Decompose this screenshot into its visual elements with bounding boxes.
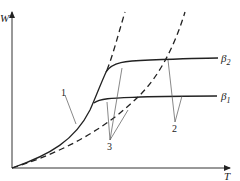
callout-3-label: 3 xyxy=(107,141,112,152)
callout-1-label: 1 xyxy=(61,87,66,98)
curve-1-solid-base xyxy=(12,70,107,168)
curve-beta1 xyxy=(94,96,217,103)
diagram-canvas: W T 1 2 3 β2 β1 xyxy=(0,0,240,181)
callout-3-leader-a xyxy=(107,102,110,140)
callout-2-leader-a xyxy=(168,60,175,122)
callout-2-leader-b xyxy=(175,96,182,122)
curve-beta2 xyxy=(106,58,218,72)
callout-1-leader xyxy=(65,95,76,124)
y-axis-label: W xyxy=(0,12,10,24)
callout-3-leader-b xyxy=(110,68,122,140)
dashed-curve-steep xyxy=(107,12,125,70)
callout-2-label: 2 xyxy=(172,123,177,134)
x-axis-label: T xyxy=(224,170,231,181)
beta2-label: β2 xyxy=(220,52,230,67)
beta1-label: β1 xyxy=(220,90,230,105)
